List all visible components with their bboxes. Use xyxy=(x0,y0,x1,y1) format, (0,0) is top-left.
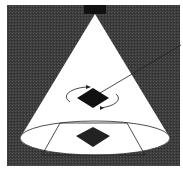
light-fixture xyxy=(84,5,106,14)
spotlight-diagram xyxy=(0,0,183,172)
